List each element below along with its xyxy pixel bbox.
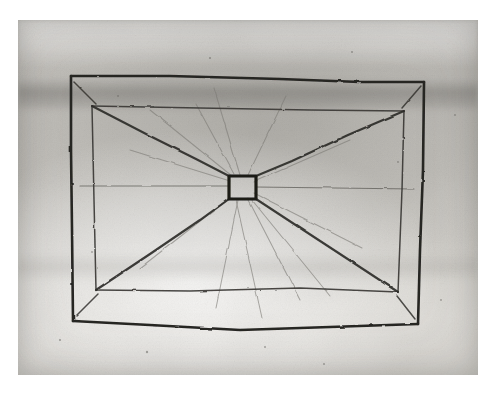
outer-right <box>418 82 424 324</box>
inner-left <box>92 106 96 290</box>
diagonal-bottom-right <box>256 199 398 292</box>
speck <box>351 51 353 53</box>
outer-rectangle <box>71 76 424 330</box>
speck <box>59 339 61 341</box>
tick-bottom-right-inner <box>397 296 415 319</box>
speck <box>454 114 456 116</box>
ray-7 <box>216 200 238 308</box>
speck <box>209 57 211 59</box>
drawing-ink-layer <box>0 0 496 397</box>
emulsion-specks <box>59 51 456 365</box>
faint-rays <box>130 88 362 318</box>
diagonal-top-right <box>256 111 404 176</box>
speck <box>397 161 399 163</box>
inner-top <box>92 106 404 111</box>
scan-page <box>0 0 496 397</box>
tick-top-left-inner <box>74 82 96 104</box>
speck <box>323 363 325 365</box>
ray-12 <box>196 104 234 174</box>
ray-3 <box>248 96 286 175</box>
speck <box>91 251 93 253</box>
axis-horizontal-right <box>256 187 414 189</box>
speck <box>146 351 148 353</box>
central-square <box>229 176 256 199</box>
diagonal-bottom-left <box>96 199 229 290</box>
speck <box>264 346 266 348</box>
speck <box>117 95 119 97</box>
outer-left <box>71 76 73 321</box>
speck <box>440 299 442 301</box>
ray-4 <box>254 140 350 182</box>
tick-bottom-left-inner <box>76 294 98 316</box>
outer-bottom <box>73 321 418 330</box>
diagonal-top-left <box>92 106 229 176</box>
outer-top <box>71 76 424 82</box>
ray-9 <box>130 150 230 181</box>
inner-right <box>398 111 404 292</box>
tick-top-right-inner <box>402 86 421 108</box>
ray-5 <box>254 193 362 248</box>
inner-bottom <box>96 288 398 292</box>
axis-lines <box>80 186 414 189</box>
